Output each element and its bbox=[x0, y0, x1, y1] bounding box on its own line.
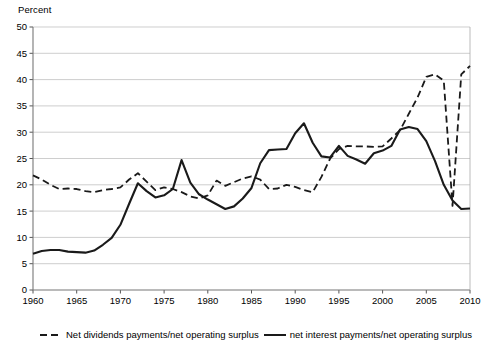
y-axis-ticks-group: 05101520253035404550 bbox=[16, 21, 33, 295]
chart-plot-area: 05101520253035404550 1960196519701975198… bbox=[0, 0, 497, 349]
y-tick-label: 40 bbox=[16, 74, 27, 85]
y-tick-label: 5 bbox=[22, 258, 27, 269]
legend-label-net-interest: net interest payments/net operating surp… bbox=[290, 330, 472, 340]
y-tick-label: 50 bbox=[16, 21, 27, 32]
x-tick-label: 1970 bbox=[110, 295, 131, 306]
chart-legend: Net dividends payments/net operating sur… bbox=[40, 325, 480, 345]
x-tick-label: 1975 bbox=[154, 295, 175, 306]
y-tick-label: 15 bbox=[16, 206, 27, 217]
y-tick-label: 35 bbox=[16, 100, 27, 111]
gridlines-group bbox=[33, 27, 470, 264]
legend-entry-net-interest: net interest payments/net operating surp… bbox=[264, 330, 472, 340]
x-tick-label: 1960 bbox=[22, 295, 43, 306]
solid-line-swatch-icon bbox=[264, 334, 286, 336]
x-tick-label: 2005 bbox=[416, 295, 437, 306]
x-tick-label: 2010 bbox=[459, 295, 480, 306]
y-tick-label: 45 bbox=[16, 48, 27, 59]
x-tick-label: 1985 bbox=[241, 295, 262, 306]
y-tick-label: 0 bbox=[22, 284, 27, 295]
x-tick-label: 1990 bbox=[285, 295, 306, 306]
x-tick-label: 1980 bbox=[197, 295, 218, 306]
y-tick-label: 25 bbox=[16, 153, 27, 164]
series-line-net-interest bbox=[33, 123, 470, 253]
dashed-line-swatch-icon bbox=[40, 334, 62, 336]
y-tick-label: 10 bbox=[16, 232, 27, 243]
chart-page: Percent 05101520253035404550 19601965197… bbox=[0, 0, 497, 349]
x-tick-label: 2000 bbox=[372, 295, 393, 306]
y-tick-label: 30 bbox=[16, 127, 27, 138]
legend-label-net-dividends: Net dividends payments/net operating sur… bbox=[66, 330, 259, 340]
x-tick-label: 1965 bbox=[66, 295, 87, 306]
legend-entry-net-dividends: Net dividends payments/net operating sur… bbox=[40, 330, 259, 340]
x-tick-label: 1995 bbox=[328, 295, 349, 306]
x-axis-ticks-group: 1960196519701975198019851990199520002005… bbox=[22, 290, 480, 306]
y-tick-label: 20 bbox=[16, 179, 27, 190]
